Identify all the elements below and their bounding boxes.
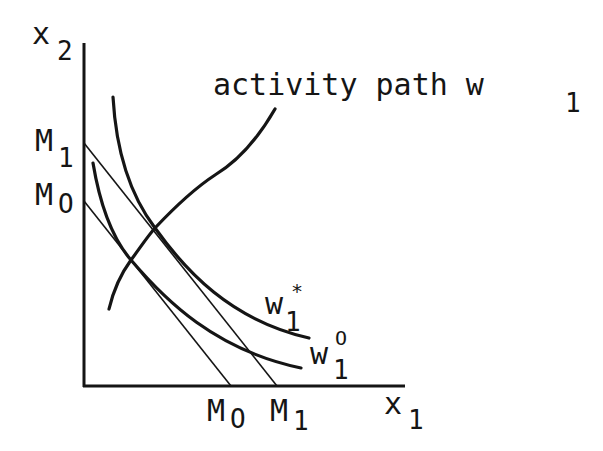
svg-text:w: w xyxy=(265,286,284,321)
diagram-canvas: x 2 x 1 M 1 M O M O M 1 w 1 * w 1 O acti… xyxy=(0,0,603,451)
svg-text:M: M xyxy=(35,123,53,158)
w1-zero-label: w 1 O xyxy=(310,326,349,385)
svg-text:*: * xyxy=(291,279,303,303)
svg-text:1: 1 xyxy=(565,88,581,118)
svg-text:x: x xyxy=(32,16,50,51)
m0-y-intercept-label: M O xyxy=(35,177,74,219)
w1-star-label: w 1 * xyxy=(265,279,303,337)
m1-x-intercept-label: M 1 xyxy=(270,393,309,436)
svg-text:M: M xyxy=(207,393,225,428)
budget-line-m1 xyxy=(84,143,277,386)
svg-text:w: w xyxy=(310,336,329,371)
svg-text:M: M xyxy=(35,177,53,212)
svg-text:activity path w: activity path w xyxy=(213,67,485,102)
svg-text:O: O xyxy=(58,189,74,219)
svg-text:x: x xyxy=(384,386,402,421)
y-axis-label: x 2 xyxy=(32,16,73,66)
svg-text:1: 1 xyxy=(333,355,349,385)
svg-text:1: 1 xyxy=(285,307,301,337)
m1-y-intercept-label: M 1 xyxy=(35,123,74,173)
svg-text:1: 1 xyxy=(408,405,424,435)
svg-text:1: 1 xyxy=(58,143,74,173)
svg-text:M: M xyxy=(270,393,288,428)
svg-text:1: 1 xyxy=(293,406,309,436)
m0-x-intercept-label: M O xyxy=(207,393,246,434)
svg-text:2: 2 xyxy=(57,36,73,66)
x-axis-label: x 1 xyxy=(384,386,424,435)
activity-path-label: activity path w 1 xyxy=(213,67,581,118)
svg-text:O: O xyxy=(230,404,246,434)
svg-text:O: O xyxy=(335,326,347,350)
